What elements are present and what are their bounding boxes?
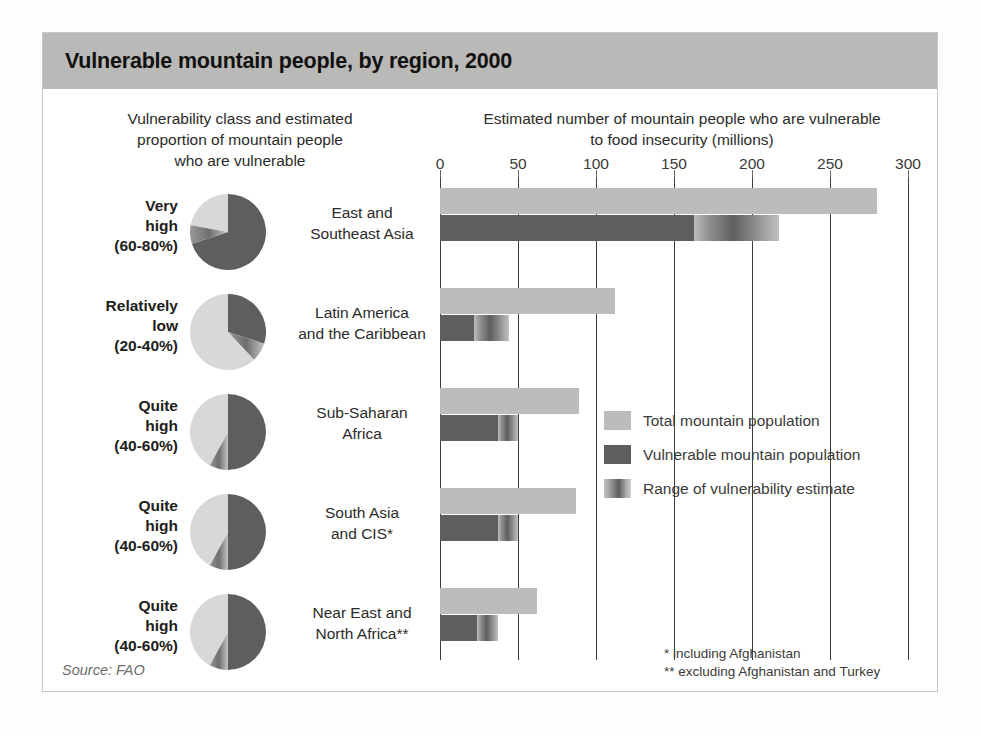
vulnerability-class-label: Quitehigh(40-60%): [56, 496, 178, 556]
vulnerable-population-bar[interactable]: [440, 215, 694, 241]
region-label-line: Sub-Saharan: [274, 402, 450, 423]
legend-swatch-range: [604, 479, 631, 498]
vulnerability-range-bar[interactable]: [477, 615, 497, 641]
legend-item-vuln[interactable]: Vulnerable mountain population: [604, 442, 924, 467]
legend-label-total: Total mountain population: [643, 412, 820, 430]
region-name-label: Near East andNorth Africa**: [274, 602, 450, 644]
class-label-line: low: [56, 316, 178, 336]
total-population-bar[interactable]: [440, 388, 579, 414]
tick-mark-100: [596, 170, 597, 178]
pie-slice-vulnerable: [228, 594, 266, 670]
class-label-line: high: [56, 216, 178, 236]
vulnerability-pie-chart[interactable]: [190, 594, 266, 670]
title-band: Vulnerable mountain people, by region, 2…: [43, 33, 937, 89]
legend-item-range[interactable]: Range of vulnerability estimate: [604, 476, 924, 501]
region-row: Relativelylow(20-40%)Latin Americaand th…: [56, 296, 436, 392]
tick-mark-300: [908, 170, 909, 178]
bar-group: [440, 588, 908, 644]
legend-item-total[interactable]: Total mountain population: [604, 408, 924, 433]
region-row: Quitehigh(40-60%)South Asiaand CIS*: [56, 496, 436, 592]
left-header-line-1: Vulnerability class and estimated: [60, 108, 420, 129]
region-name-label: East andSoutheast Asia: [274, 202, 450, 244]
region-label-line: and CIS*: [274, 523, 450, 544]
legend-swatch-total: [604, 411, 631, 430]
vulnerability-pie-chart[interactable]: [190, 494, 266, 570]
region-name-label: Sub-SaharanAfrica: [274, 402, 450, 444]
class-label-line: (40-60%): [56, 536, 178, 556]
axis-title-line-1: Estimated number of mountain people who …: [432, 108, 932, 129]
footnote-1: * including Afghanistan: [664, 645, 880, 663]
vulnerability-class-label: Quitehigh(40-60%): [56, 596, 178, 656]
region-label-line: Near East and: [274, 602, 450, 623]
class-label-line: (20-40%): [56, 336, 178, 356]
total-population-bar[interactable]: [440, 588, 537, 614]
total-population-bar[interactable]: [440, 188, 877, 214]
left-header-line-2: proportion of mountain people: [60, 129, 420, 150]
region-row: Veryhigh(60-80%)East andSoutheast Asia: [56, 196, 436, 292]
class-label-line: high: [56, 616, 178, 636]
legend-label-range: Range of vulnerability estimate: [643, 480, 855, 498]
region-label-line: Southeast Asia: [274, 223, 450, 244]
left-column-header: Vulnerability class and estimated propor…: [60, 108, 420, 171]
class-label-line: (60-80%): [56, 236, 178, 256]
bar-group: [440, 188, 908, 244]
total-population-bar[interactable]: [440, 488, 576, 514]
region-label-line: North Africa**: [274, 623, 450, 644]
vulnerability-class-label: Veryhigh(60-80%): [56, 196, 178, 256]
chart-axis-title: Estimated number of mountain people who …: [432, 108, 932, 150]
class-label-line: (40-60%): [56, 436, 178, 456]
region-label-line: Latin America: [274, 302, 450, 323]
total-population-bar[interactable]: [440, 288, 615, 314]
left-header-line-3: who are vulnerable: [60, 150, 420, 171]
class-label-line: (40-60%): [56, 636, 178, 656]
region-row: Quitehigh(40-60%)Sub-SaharanAfrica: [56, 396, 436, 492]
region-label-line: Africa: [274, 423, 450, 444]
chart-legend: Total mountain populationVulnerable moun…: [604, 408, 924, 510]
source-note: Source: FAO: [62, 662, 145, 678]
vulnerability-class-label: Relativelylow(20-40%): [56, 296, 178, 356]
tick-mark-250: [830, 170, 831, 178]
tick-mark-50: [518, 170, 519, 178]
class-label-line: high: [56, 516, 178, 536]
region-label-line: South Asia: [274, 502, 450, 523]
vulnerability-range-bar[interactable]: [498, 515, 518, 541]
page-title: Vulnerable mountain people, by region, 2…: [43, 49, 512, 74]
vulnerability-range-bar[interactable]: [474, 315, 508, 341]
region-name-label: Latin Americaand the Caribbean: [274, 302, 450, 344]
legend-label-vuln: Vulnerable mountain population: [643, 446, 860, 464]
footnotes: * including Afghanistan ** excluding Afg…: [664, 645, 880, 681]
vulnerability-pie-chart[interactable]: [190, 294, 266, 370]
footnote-2: ** excluding Afghanistan and Turkey: [664, 663, 880, 681]
vulnerability-range-bar[interactable]: [498, 415, 518, 441]
region-label-line: East and: [274, 202, 450, 223]
class-label-line: Relatively: [56, 296, 178, 316]
vulnerability-pie-chart[interactable]: [190, 394, 266, 470]
vulnerability-range-bar[interactable]: [694, 215, 778, 241]
region-label-line: and the Caribbean: [274, 323, 450, 344]
tick-mark-200: [752, 170, 753, 178]
legend-swatch-vuln: [604, 445, 631, 464]
region-name-label: South Asiaand CIS*: [274, 502, 450, 544]
tick-mark-0: [440, 170, 441, 178]
pie-slice-vulnerable: [228, 494, 266, 570]
class-label-line: high: [56, 416, 178, 436]
class-label-line: Quite: [56, 596, 178, 616]
bar-group: [440, 288, 908, 344]
vulnerability-class-label: Quitehigh(40-60%): [56, 396, 178, 456]
x-axis-tick-labels: 050100150200250300: [440, 155, 910, 177]
tick-mark-150: [674, 170, 675, 178]
class-label-line: Quite: [56, 396, 178, 416]
pie-slice-vulnerable: [228, 394, 266, 470]
chart-page: Vulnerable mountain people, by region, 2…: [0, 0, 981, 736]
class-label-line: Quite: [56, 496, 178, 516]
vulnerability-pie-chart[interactable]: [190, 194, 266, 270]
axis-title-line-2: to food insecurity (millions): [432, 129, 932, 150]
class-label-line: Very: [56, 196, 178, 216]
